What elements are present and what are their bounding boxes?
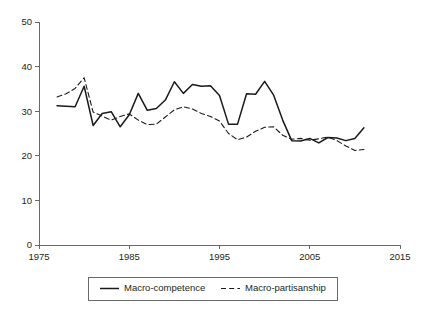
y-tick-label: 20 bbox=[21, 150, 32, 161]
y-tick-label: 0 bbox=[27, 239, 32, 250]
legend-label-macro-competence: Macro-competence bbox=[124, 282, 205, 293]
line-chart: 01020304050 19751985199520052015 Macro-c… bbox=[0, 0, 425, 316]
chart-container: 01020304050 19751985199520052015 Macro-c… bbox=[0, 0, 425, 316]
chart-legend: Macro-competenceMacro-partisanship bbox=[88, 277, 337, 300]
x-tick-label: 2005 bbox=[299, 251, 320, 262]
x-tick-label: 1975 bbox=[28, 251, 49, 262]
y-tick-label: 10 bbox=[21, 195, 32, 206]
y-tick-label: 30 bbox=[21, 106, 32, 117]
series-line-macro-partisanship bbox=[57, 78, 364, 151]
x-axis: 19751985199520052015 bbox=[28, 245, 410, 262]
x-tick-label: 2015 bbox=[389, 251, 410, 262]
x-tick-label: 1995 bbox=[209, 251, 230, 262]
y-tick-label: 50 bbox=[21, 16, 32, 27]
y-axis: 01020304050 bbox=[21, 16, 39, 250]
series-line-macro-competence bbox=[57, 81, 364, 143]
series-lines bbox=[57, 78, 364, 151]
x-tick-label: 1985 bbox=[119, 251, 140, 262]
legend-label-macro-partisanship: Macro-partisanship bbox=[245, 282, 326, 293]
y-tick-label: 40 bbox=[21, 61, 32, 72]
